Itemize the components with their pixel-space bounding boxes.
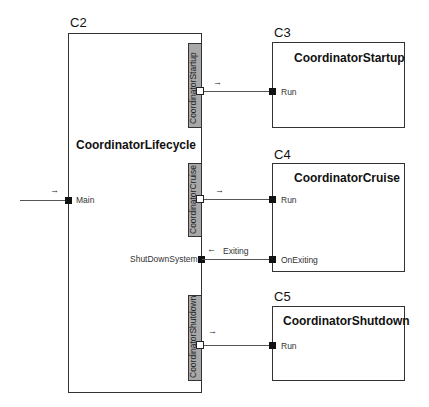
c3-run-label: Run (281, 87, 297, 97)
c5-title: CoordinatorShutdown (283, 314, 410, 328)
shutdown-out-port[interactable] (196, 341, 204, 349)
c4-run-port[interactable] (269, 196, 276, 203)
c4-onexiting-label: OnExiting (281, 255, 318, 265)
c5-run-label: Run (281, 341, 297, 351)
main-component-title: CoordinatorLifecycle (76, 138, 196, 152)
c4-onexiting-port[interactable] (269, 256, 276, 263)
c3-title: CoordinatorStartup (294, 51, 405, 65)
arrow-right-icon: → (215, 186, 224, 195)
shutdown-port-label: ShutDownSystem (130, 254, 198, 264)
shutdown-connection (204, 345, 272, 346)
main-component-id: C2 (70, 15, 87, 30)
exiting-label: Exiting (223, 246, 249, 256)
main-port[interactable] (65, 197, 72, 204)
c4-id: C4 (274, 147, 291, 162)
c4-run-label: Run (281, 195, 297, 205)
arrow-right-icon: → (208, 327, 217, 336)
startup-connection (204, 91, 272, 92)
c5-run-port[interactable] (269, 342, 276, 349)
c5-id: C5 (274, 289, 291, 304)
c3-run-port[interactable] (269, 88, 276, 95)
main-input-line (20, 200, 68, 201)
arrow-right-icon: → (213, 78, 222, 87)
startup-out-port[interactable] (196, 87, 204, 95)
arrow-right-icon: → (50, 186, 59, 195)
arrow-left-icon: ← (207, 245, 216, 254)
sub-bar-shutdown-label: CoordinatorShutdown (188, 296, 198, 378)
cruise-connection (204, 199, 272, 200)
c4-title: CoordinatorCruise (294, 171, 400, 185)
cruise-out-port[interactable] (196, 195, 204, 203)
main-port-label: Main (76, 195, 94, 205)
main-component-box[interactable] (68, 33, 202, 393)
c3-id: C3 (274, 25, 291, 40)
exiting-connection (202, 259, 272, 260)
